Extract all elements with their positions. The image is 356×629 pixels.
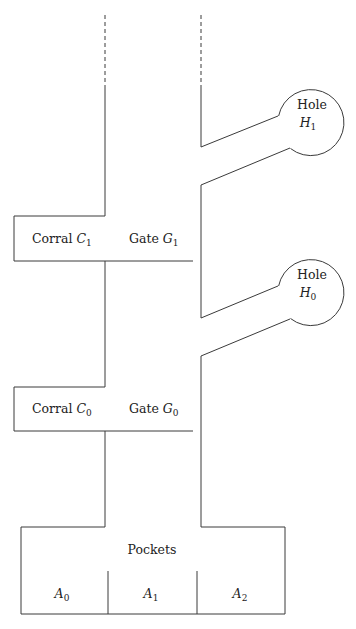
pocket-a1-label: A1 (143, 586, 159, 603)
hole-h1-label: Hole (297, 97, 327, 112)
corral-c1-label: CorralC1 (32, 231, 92, 248)
right-channel-mid (201, 148, 290, 318)
pocket-a0-label: A0 (54, 586, 70, 603)
pockets-title: Pockets (128, 542, 177, 557)
corral-c0-label: CorralC0 (32, 401, 92, 418)
hole-h1-symbol: H1 (299, 115, 317, 132)
right-channel-lower (201, 319, 290, 527)
pocket-a2-label: A2 (232, 586, 248, 603)
hole-h1-upper-branch (201, 87, 278, 147)
maze-diagram: Hole H1 Hole H0 CorralC1 GateG1 CorralC0… (0, 0, 356, 629)
gate-g0-label: GateG0 (129, 401, 179, 418)
hole-h0-symbol: H0 (299, 285, 317, 302)
hole-h0-label: Hole (297, 267, 327, 282)
gate-g1-label: GateG1 (129, 231, 179, 248)
